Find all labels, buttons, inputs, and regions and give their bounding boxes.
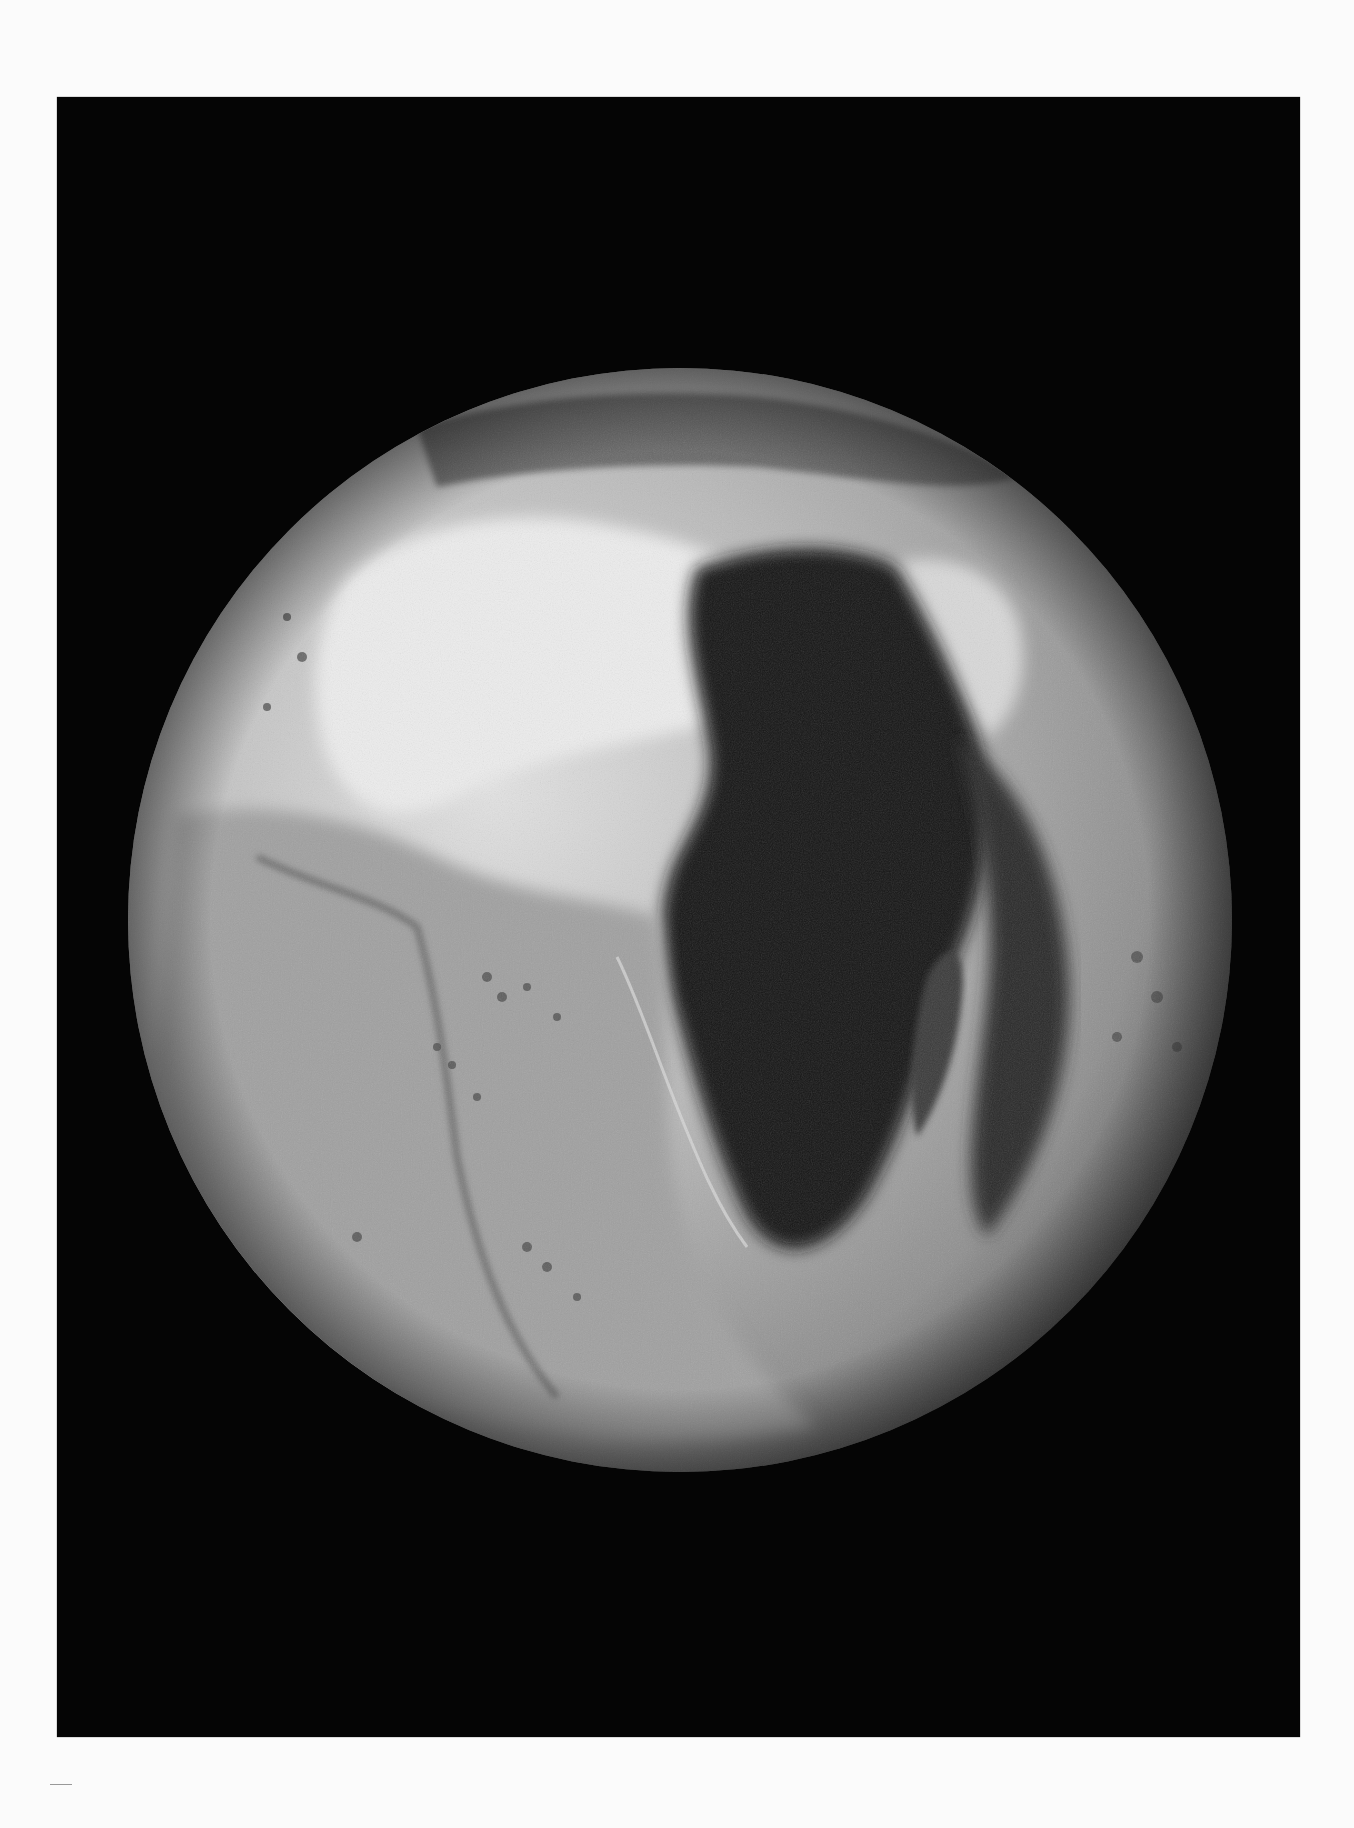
scan-artifact [50, 1784, 72, 1785]
photo-background [57, 97, 1300, 1737]
relief-globe-image [57, 97, 1300, 1737]
